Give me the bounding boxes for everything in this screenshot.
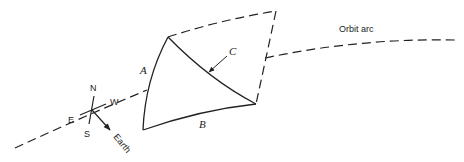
west-label: W xyxy=(110,97,119,107)
edge-a xyxy=(143,37,168,130)
south-label: S xyxy=(84,129,90,139)
diagonal-c xyxy=(168,37,256,104)
right-edge xyxy=(256,11,276,104)
diagonal-c-label: C xyxy=(229,45,237,57)
north-label: N xyxy=(90,83,97,93)
edge-a-label: A xyxy=(139,64,147,76)
earth-arrow xyxy=(92,110,110,130)
orbit-arc-left xyxy=(15,90,147,148)
earth-label: Earth xyxy=(111,132,132,155)
edge-b-label: B xyxy=(199,118,206,130)
top-edge xyxy=(168,11,276,37)
east-label: E xyxy=(68,115,74,125)
orbit-arc-right xyxy=(265,40,455,58)
orbit-diagram: Orbit arc A B C N S E W Earth xyxy=(0,0,464,162)
c-pointer-arrow xyxy=(209,56,227,72)
compass xyxy=(80,96,110,130)
orbit-label: Orbit arc xyxy=(339,24,374,34)
